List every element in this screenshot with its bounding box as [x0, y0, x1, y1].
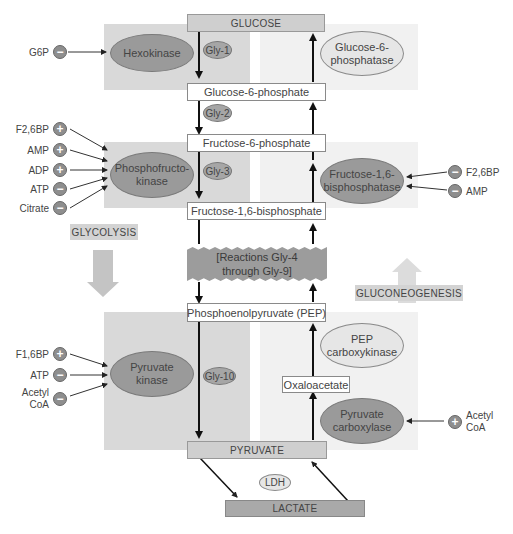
gly-3-badge: Gly-3: [203, 162, 232, 180]
minus-icon: −: [53, 201, 67, 215]
regulator-acetylcoa-pc: + AcetylCoA: [448, 410, 493, 434]
minus-icon: −: [448, 165, 462, 179]
regulator-f26bp-fbpase: − F2,6BP: [448, 165, 499, 179]
f6p-box: Fructose-6-phosphate: [187, 134, 326, 152]
plus-icon: +: [53, 163, 67, 177]
pyruvate-kinase-enzyme[interactable]: Pyruvatekinase: [110, 351, 194, 397]
reactions-line1: [Reactions Gly-4: [216, 251, 297, 263]
glycolysis-direction-arrow: [87, 250, 119, 297]
minus-icon: −: [53, 392, 67, 406]
gly-1-badge: Gly-1: [203, 41, 232, 59]
pep-carboxykinase-enzyme[interactable]: PEPcarboxykinase: [320, 323, 404, 368]
plus-icon: +: [448, 415, 462, 429]
regulator-acetylcoa-pk: AcetylCoA −: [22, 387, 67, 411]
regulator-atp-pk: ATP −: [30, 368, 67, 382]
minus-icon: −: [448, 184, 462, 198]
minus-icon: −: [53, 45, 67, 59]
minus-icon: −: [53, 368, 67, 382]
glucose-box: Glucose: [187, 14, 325, 32]
oxaloacetate-box: Oxaloacetate: [282, 376, 350, 393]
f16bp-box: Fructose-1,6-bisphosphate: [187, 202, 326, 220]
g6p-box: Glucose-6-phosphate: [187, 83, 326, 101]
gly-2-badge: Gly-2: [203, 104, 232, 122]
regulator-f16bp-pk: F1,6BP +: [16, 347, 67, 361]
regulator-adp-pfk: ADP +: [28, 163, 67, 177]
reactions-gly4-gly9-block: [Reactions Gly-4through Gly-9]: [187, 247, 327, 281]
regulator-atp-pfk: ATP −: [30, 182, 67, 196]
hexokinase-enzyme[interactable]: Hexokinase: [110, 34, 194, 72]
reactions-line2: through Gly-9]: [222, 265, 292, 277]
plus-icon: +: [53, 143, 67, 157]
glycolysis-label: Glycolysis: [70, 224, 138, 240]
pep-box: Phosphoenolpyruvate (PEP): [187, 303, 326, 322]
minus-icon: −: [53, 182, 67, 196]
fructose-bisphosphatase-enzyme[interactable]: Fructose-1,6-bisphosphatase: [320, 158, 404, 204]
ldh-enzyme[interactable]: LDH: [259, 474, 291, 491]
gluconeogenesis-label: Gluconeogenesis: [355, 285, 463, 301]
regulator-g6p: G6P −: [29, 45, 67, 59]
gly-10-badge: Gly-10: [203, 367, 236, 385]
regulator-amp-fbpase: − AMP: [448, 184, 488, 198]
plus-icon: +: [53, 347, 67, 361]
pyruvate-carboxylase-enzyme[interactable]: Pyruvatecarboxylase: [320, 398, 404, 444]
lactate-box: Lactate: [225, 500, 365, 517]
regulator-amp-pfk: AMP +: [27, 143, 67, 157]
plus-icon: +: [53, 122, 67, 136]
regulator-f26bp-pfk: F2,6BP +: [16, 122, 67, 136]
glucose-6-phosphatase-enzyme[interactable]: Glucose-6-phosphatase: [320, 31, 404, 76]
phosphofructokinase-enzyme[interactable]: Phosphofructo-kinase: [110, 152, 194, 198]
pyruvate-box: Pyruvate: [187, 441, 327, 459]
regulator-citrate-pfk: Citrate −: [20, 201, 67, 215]
